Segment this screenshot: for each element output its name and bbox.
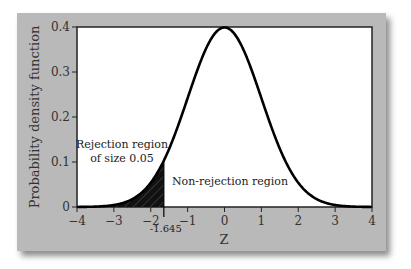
normal-distribution-chart: −4−3−2−101234 00.10.20.30.4 -1.645 Z Pro… — [0, 0, 411, 269]
x-tick-label: 2 — [294, 214, 302, 228]
x-axis-label: Z — [219, 232, 228, 247]
x-tick-label: 1 — [258, 214, 266, 228]
critical-value-label: -1.645 — [150, 223, 182, 234]
y-tick-label: 0.1 — [51, 155, 70, 169]
x-tick-label: 0 — [221, 214, 229, 228]
y-tick-label: 0.4 — [51, 20, 70, 34]
x-tick-label: −3 — [105, 214, 123, 228]
x-tick-label: 4 — [368, 214, 376, 228]
y-tick-label: 0 — [62, 200, 70, 214]
y-tick-label: 0.3 — [51, 65, 70, 79]
y-axis-label: Probability density function — [27, 25, 42, 208]
y-tick-label: 0.2 — [51, 110, 70, 124]
x-tick-label: −4 — [68, 214, 86, 228]
x-axis-ticks: −4−3−2−101234 — [68, 207, 376, 228]
rejection-region-label-line2: of size 0.05 — [90, 152, 154, 165]
non-rejection-region-label: Non-rejection region — [172, 175, 288, 188]
x-tick-label: 3 — [331, 214, 339, 228]
rejection-region-label-line1: Rejection region — [76, 138, 168, 151]
y-axis-ticks: 00.10.20.30.4 — [51, 20, 77, 214]
